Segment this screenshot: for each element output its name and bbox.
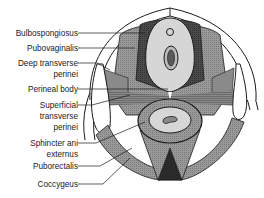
label-puborectalis: Puborectalis <box>33 161 78 172</box>
label-superficial-transverse-perinei: Superficial transverse perinei <box>40 100 78 133</box>
label-perineal-body: Perineal body <box>28 84 78 95</box>
label-line: transverse <box>40 111 78 122</box>
label-text: Perineal body <box>28 85 78 94</box>
label-text: Pubovaginalis <box>27 44 78 53</box>
label-bulbospongiosus: Bulbospongiosus <box>16 28 78 39</box>
label-coccygeus: Coccygeus <box>37 179 78 190</box>
label-line: Sphincter ani <box>30 138 78 149</box>
label-sphincter-ani-externus: Sphincter ani externus <box>30 138 78 160</box>
label-line: perinei <box>18 69 78 80</box>
label-text: Puborectalis <box>33 162 78 171</box>
urethral-opening <box>167 29 174 36</box>
label-line: perinei <box>40 122 78 133</box>
label-text: Bulbospongiosus <box>16 29 78 38</box>
label-deep-transverse-perinei: Deep transverse perinei <box>18 58 78 80</box>
label-line: Deep transverse <box>18 58 78 69</box>
label-pubovaginalis: Pubovaginalis <box>27 43 78 54</box>
label-line: Superficial <box>40 100 78 111</box>
label-line: externus <box>30 149 78 160</box>
label-text: Coccygeus <box>37 180 78 189</box>
